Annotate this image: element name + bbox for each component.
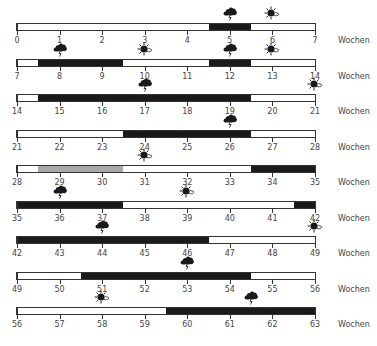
- week-tick-label: 28: [310, 143, 320, 152]
- axis-tick: [230, 172, 231, 177]
- storm-cloud-icon: [137, 77, 153, 93]
- week-tick-label: 35: [12, 214, 22, 223]
- storm-cloud-icon: [52, 184, 68, 200]
- sun-icon: [264, 42, 280, 58]
- axis-tick: [272, 243, 273, 248]
- axis-tick: [272, 101, 273, 106]
- timeline-row: 5657585960616263Wochen: [0, 307, 377, 343]
- week-tick-label: 20: [267, 107, 277, 116]
- axis-tick: [17, 307, 18, 319]
- axis-tick: [60, 137, 61, 142]
- week-tick-label: 45: [140, 249, 150, 258]
- axis-tick: [145, 137, 146, 142]
- unit-label: Wochen: [338, 143, 370, 152]
- sun-icon: [137, 148, 153, 164]
- axis-tick: [17, 165, 18, 177]
- axis-tick: [272, 137, 273, 142]
- week-tick-label: 7: [312, 36, 317, 45]
- axis-tick: [315, 307, 316, 319]
- axis-tick: [60, 208, 61, 213]
- axis-tick: [187, 208, 188, 213]
- week-tick-label: 18: [182, 107, 192, 116]
- axis-tick: [315, 130, 316, 142]
- axis-tick: [315, 272, 316, 284]
- axis-tick: [145, 208, 146, 213]
- axis-tick: [102, 137, 103, 142]
- sun-icon: [179, 184, 195, 200]
- week-tick-label: 27: [267, 143, 277, 152]
- week-tick-label: 62: [267, 320, 277, 329]
- storm-cloud-icon: [222, 42, 238, 58]
- gray-period-segment: [38, 166, 123, 172]
- unit-label: Wochen: [338, 178, 370, 187]
- week-bar: [16, 165, 316, 173]
- axis-tick: [315, 165, 316, 177]
- storm-cloud-icon: [222, 6, 238, 22]
- week-tick-label: 21: [310, 107, 320, 116]
- week-tick-label: 15: [54, 107, 64, 116]
- week-tick-label: 60: [182, 320, 192, 329]
- axis-tick: [187, 279, 188, 284]
- axis-tick: [17, 272, 18, 284]
- week-tick-label: 26: [225, 143, 235, 152]
- unit-label: Wochen: [338, 36, 370, 45]
- axis-tick: [102, 243, 103, 248]
- week-tick-label: 13: [267, 72, 277, 81]
- axis-tick: [60, 279, 61, 284]
- axis-tick: [60, 66, 61, 71]
- dark-period-segment: [81, 273, 251, 279]
- week-tick-label: 28: [12, 178, 22, 187]
- week-tick-label: 35: [310, 178, 320, 187]
- week-tick-label: 52: [140, 285, 150, 294]
- dark-period-segment: [166, 308, 315, 314]
- timeline-row: 2122232425262728Wochen: [0, 130, 377, 166]
- week-tick-label: 47: [225, 249, 235, 258]
- sun-icon: [307, 219, 323, 235]
- week-tick-label: 4: [185, 36, 190, 45]
- week-tick-label: 61: [225, 320, 235, 329]
- week-tick-label: 50: [54, 285, 64, 294]
- storm-cloud-icon: [222, 113, 238, 129]
- axis-tick: [272, 279, 273, 284]
- axis-tick: [272, 314, 273, 319]
- axis-tick: [102, 314, 103, 319]
- axis-tick: [315, 236, 316, 248]
- sun-icon: [137, 42, 153, 58]
- week-tick-label: 53: [182, 285, 192, 294]
- week-tick-label: 56: [310, 285, 320, 294]
- sun-icon: [94, 290, 110, 306]
- axis-tick: [17, 94, 18, 106]
- week-bar: [16, 236, 316, 244]
- dark-period-segment: [294, 202, 315, 208]
- week-tick-label: 31: [140, 178, 150, 187]
- week-tick-label: 56: [12, 320, 22, 329]
- week-tick-label: 25: [182, 143, 192, 152]
- timeline-row: 4950515253545556Wochen: [0, 272, 377, 308]
- week-tick-label: 30: [97, 178, 107, 187]
- week-tick-label: 22: [54, 143, 64, 152]
- unit-label: Wochen: [338, 72, 370, 81]
- dark-period-segment: [38, 60, 123, 66]
- axis-tick: [230, 30, 231, 35]
- unit-label: Wochen: [338, 320, 370, 329]
- sun-icon: [307, 77, 323, 93]
- axis-tick: [102, 66, 103, 71]
- week-tick-label: 54: [225, 285, 235, 294]
- storm-cloud-icon: [94, 219, 110, 235]
- storm-cloud-icon: [243, 290, 259, 306]
- week-tick-label: 23: [97, 143, 107, 152]
- axis-tick: [145, 314, 146, 319]
- storm-cloud-icon: [52, 42, 68, 58]
- week-tick-label: 2: [100, 36, 105, 45]
- axis-tick: [187, 66, 188, 71]
- axis-tick: [187, 101, 188, 106]
- week-tick-label: 21: [12, 143, 22, 152]
- week-tick-label: 0: [14, 36, 19, 45]
- axis-tick: [102, 208, 103, 213]
- week-tick-label: 9: [100, 72, 105, 81]
- axis-tick: [17, 130, 18, 142]
- week-tick-label: 34: [267, 178, 277, 187]
- week-tick-label: 49: [310, 249, 320, 258]
- axis-tick: [315, 23, 316, 35]
- week-bar: [16, 59, 316, 67]
